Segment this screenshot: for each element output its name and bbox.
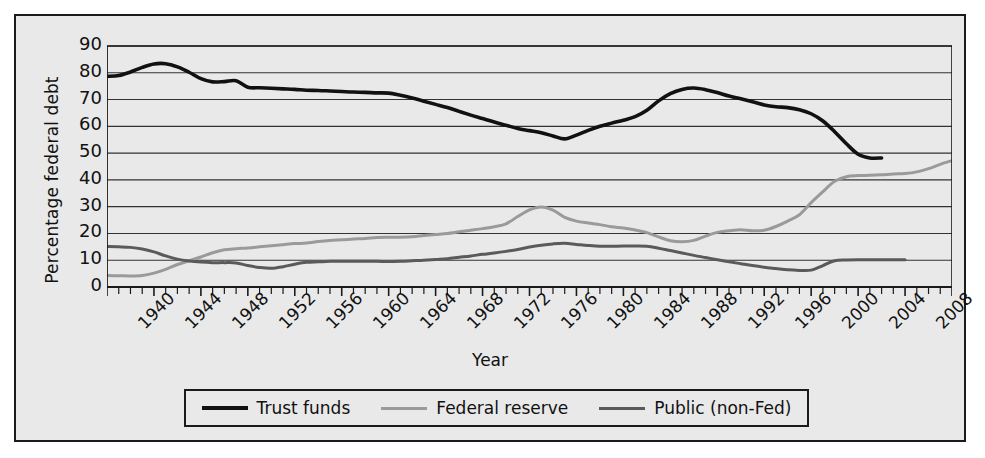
y-tick-label: 70 [68,91,102,105]
x-tick-label: 1968 [462,288,507,333]
y-tick-label: 0 [68,278,102,292]
x-tick-label: 1984 [650,288,695,333]
x-tick-label: 1940 [134,288,179,333]
legend-label: Trust funds [257,398,351,418]
legend-swatch [202,406,248,410]
y-axis-tick-labels: 9080706050403020100 [60,16,102,440]
x-tick-label: 2008 [932,288,977,333]
x-tick-label: 2004 [885,288,930,333]
x-tick-label: 1964 [415,288,460,333]
legend-entry[interactable]: Federal reserve [381,398,568,418]
y-tick-label: 90 [68,37,102,51]
legend-entry[interactable]: Public (non-Fed) [599,398,791,418]
y-tick-label: 10 [68,251,102,265]
x-tick-label: 1976 [556,288,601,333]
x-tick-label: 1960 [368,288,413,333]
legend-entry[interactable]: Trust funds [202,398,351,418]
y-tick-label: 30 [68,198,102,212]
legend-swatch [599,407,645,410]
x-tick-label: 1956 [321,288,366,333]
chart-legend: Trust fundsFederal reservePublic (non-Fe… [184,389,809,427]
plot-area [107,44,952,285]
chart-frame: Percentage federal debt 9080706050403020… [14,14,966,442]
y-tick-label: 50 [68,144,102,158]
x-tick-label: 1992 [744,288,789,333]
legend-swatch [381,407,427,410]
x-axis-title: Year [16,350,964,370]
x-tick-label: 1972 [509,288,554,333]
x-tick-label: 2000 [838,288,883,333]
x-tick-label: 1948 [228,288,273,333]
x-tick-label: 1980 [603,288,648,333]
chart-figure: Percentage federal debt 9080706050403020… [0,0,985,458]
x-tick-label: 1996 [791,288,836,333]
x-tick-label: 1952 [275,288,320,333]
line-chart-svg [107,44,952,297]
x-tick-label: 1944 [181,288,226,333]
y-tick-label: 80 [68,64,102,78]
legend-label: Public (non-Fed) [654,398,791,418]
legend-label: Federal reserve [436,398,568,418]
x-axis-tick-labels: 1940194419481952195619601964196819721976… [107,288,952,348]
y-tick-label: 60 [68,117,102,131]
y-tick-label: 40 [68,171,102,185]
y-tick-label: 20 [68,224,102,238]
x-tick-label: 1988 [697,288,742,333]
